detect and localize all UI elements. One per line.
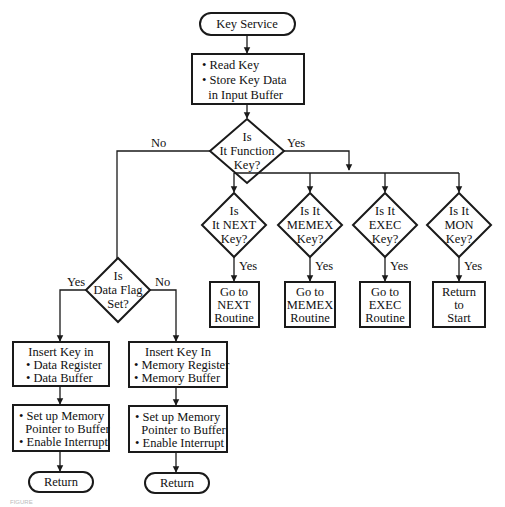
yes-label: Yes	[239, 259, 257, 273]
data-flag-yes-label: Yes	[67, 275, 85, 289]
box-line: Insert Key In	[145, 345, 212, 359]
connector-yes	[60, 290, 86, 341]
decision-line: It NEXT	[212, 218, 256, 232]
read-key-line-2: • Store Key Data	[202, 73, 287, 87]
start-label: Key Service	[216, 17, 278, 31]
action-line: Go to	[296, 285, 324, 299]
data-flag-decision: Is Data Flag Set?	[86, 258, 150, 322]
action-line: Routine	[290, 311, 330, 325]
action-line: EXEC	[369, 298, 402, 312]
decision-line: Key?	[372, 232, 399, 246]
return-label: Return	[160, 476, 195, 490]
decision-line: EXEC	[369, 218, 402, 232]
action-line: Start	[447, 311, 471, 325]
data-flag-no-label: No	[155, 275, 170, 289]
box-line: • Enable Interrupt	[19, 435, 109, 449]
start-terminal: Key Service	[200, 13, 295, 35]
action-line: Routine	[214, 311, 254, 325]
decision-line: Key?	[446, 232, 473, 246]
action-line: MEMEX	[287, 298, 334, 312]
function-decision-line-3: Key?	[234, 158, 261, 172]
box-line: • Memory Buffer	[134, 371, 221, 385]
connector-yes	[284, 151, 349, 170]
flowchart: Key Service • Read Key • Store Key Data …	[0, 0, 505, 507]
function-no-label: No	[151, 136, 166, 150]
decision-line: Is	[113, 269, 122, 283]
action-line: Go to	[220, 285, 248, 299]
decision-line: MEMEX	[287, 218, 334, 232]
box-line: • Data Buffer	[26, 371, 93, 385]
box-line: • Set up Memory	[135, 410, 221, 424]
decision-line: Is It	[449, 204, 469, 218]
decision-line: Is It	[375, 204, 395, 218]
connector-no	[150, 290, 176, 341]
action-line: Return	[442, 285, 477, 299]
function-decision-line-1: Is	[242, 130, 251, 144]
data-branch: Insert Key in • Data Register • Data Buf…	[13, 342, 111, 492]
box-line: • Set up Memory	[19, 409, 105, 423]
return-label: Return	[44, 475, 79, 489]
box-line: Insert Key in	[28, 345, 94, 359]
action-line: Go to	[371, 285, 399, 299]
box-line: Pointer to Buffer	[19, 422, 111, 436]
decision-line: Key?	[221, 232, 248, 246]
decision-line: Data Flag	[94, 283, 144, 297]
read-key-line-3: in Input Buffer	[202, 88, 284, 102]
yes-label: Yes	[464, 259, 482, 273]
mon-key-branch: Is It MON Key? Yes Return to Start	[427, 193, 491, 327]
read-key-box: • Read Key • Store Key Data in Input Buf…	[192, 54, 304, 104]
function-decision-line-2: It Function	[219, 144, 275, 158]
yes-label: Yes	[390, 259, 408, 273]
read-key-line-1: • Read Key	[202, 58, 260, 72]
decision-line: Key?	[297, 232, 324, 246]
function-yes-label: Yes	[287, 136, 305, 150]
box-line: • Memory Register	[134, 358, 230, 372]
memory-branch: Insert Key In • Memory Register • Memory…	[129, 342, 230, 493]
box-line: • Data Register	[26, 358, 103, 372]
action-line: Routine	[365, 311, 405, 325]
action-line: to	[454, 298, 464, 312]
decision-line: Set?	[107, 297, 129, 311]
box-line: • Enable Interrupt	[135, 436, 225, 450]
memex-key-branch: Is It MEMEX Key? Yes Go to MEMEX Routine	[278, 193, 342, 327]
exec-key-branch: Is It EXEC Key? Yes Go to EXEC Routine	[353, 193, 417, 327]
decision-line: Is	[229, 204, 238, 218]
figure-caption: FIGURE	[10, 499, 33, 505]
box-line: Pointer to Buffer	[135, 423, 227, 437]
decision-line: MON	[444, 218, 473, 232]
connector-no	[117, 151, 210, 278]
action-line: NEXT	[217, 298, 251, 312]
next-key-branch: Is It NEXT Key? Yes Go to NEXT Routine	[202, 193, 266, 327]
yes-label: Yes	[315, 259, 333, 273]
decision-line: Is It	[300, 204, 320, 218]
